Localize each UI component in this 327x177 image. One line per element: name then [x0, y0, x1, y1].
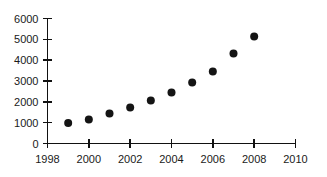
- data-point: [250, 32, 258, 40]
- y-tick-label: 0: [32, 138, 38, 150]
- data-point: [106, 110, 114, 118]
- x-tick-label: 2000: [77, 153, 101, 165]
- x-axis: 1998200020022004200620082010: [35, 139, 307, 165]
- x-tick-label: 2006: [201, 153, 225, 165]
- data-point: [126, 103, 134, 111]
- x-tick-label: 2004: [159, 153, 183, 165]
- data-point: [168, 88, 176, 96]
- y-tick-label: 5000: [14, 33, 38, 45]
- y-tick-label: 6000: [14, 13, 38, 25]
- y-tick-label: 2000: [14, 96, 38, 108]
- y-tick-label: 3000: [14, 75, 38, 87]
- y-tick-label: 4000: [14, 54, 38, 66]
- x-tick-label: 2008: [242, 153, 266, 165]
- data-points: [64, 32, 258, 126]
- x-tick-label: 1998: [35, 153, 59, 165]
- data-point: [209, 67, 217, 75]
- y-axis: 0100020003000400050006000: [14, 13, 52, 150]
- data-point: [188, 78, 196, 86]
- data-point: [147, 97, 155, 105]
- scatter-chart: 0100020003000400050006000 19982000200220…: [0, 0, 327, 177]
- data-point: [230, 50, 238, 58]
- y-tick-label: 1000: [14, 117, 38, 129]
- plot-area: 0100020003000400050006000 19982000200220…: [0, 0, 327, 177]
- x-tick-label: 2002: [118, 153, 142, 165]
- data-point: [85, 116, 93, 124]
- x-tick-label: 2010: [283, 153, 307, 165]
- data-point: [64, 119, 72, 127]
